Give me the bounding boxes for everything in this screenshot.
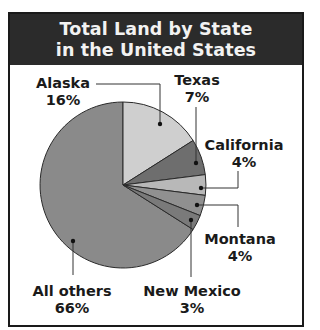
dot-new-mexico [189, 218, 193, 222]
label-california: California 4% [205, 137, 284, 171]
label-montana: Montana 4% [204, 231, 276, 265]
dot-texas [194, 161, 198, 165]
dot-montana [195, 203, 199, 207]
dot-all-others [71, 239, 75, 243]
dot-alaska [158, 122, 162, 126]
dot-california [199, 186, 203, 190]
label-new-mexico: New Mexico 3% [143, 283, 241, 317]
leader-california [201, 171, 238, 188]
label-texas: Texas 7% [174, 72, 220, 106]
label-all-others: All others 66% [32, 283, 111, 317]
label-alaska: Alaska 16% [36, 75, 90, 109]
